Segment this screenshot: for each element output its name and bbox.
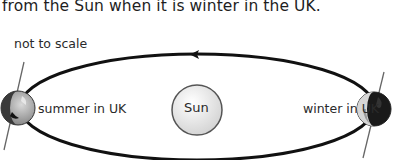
earth-summer-icon [1,62,35,150]
winter-in-uk-label: winter in UK [303,101,379,116]
orbit-diagram [0,0,393,160]
sun-label: Sun [184,100,209,115]
summer-in-uk-label: summer in UK [38,101,126,116]
